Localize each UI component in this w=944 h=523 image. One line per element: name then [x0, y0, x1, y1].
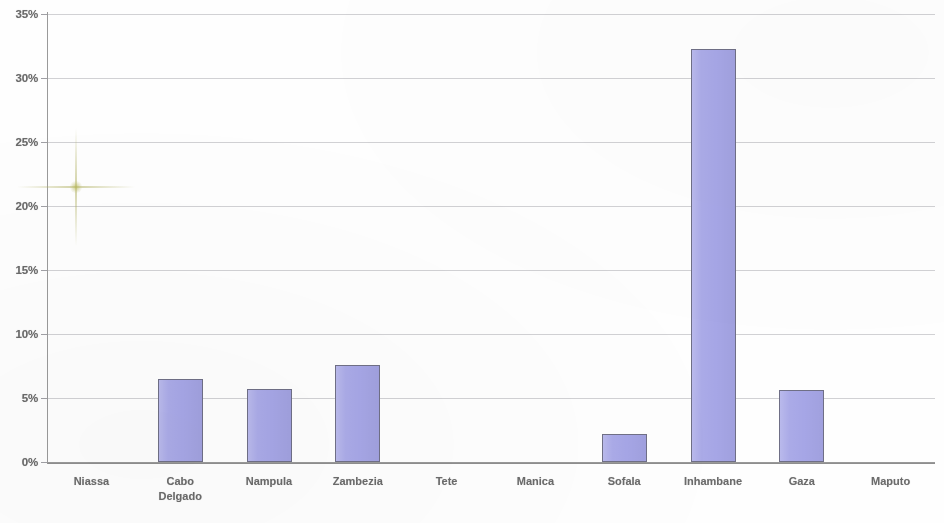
bar-inhambane — [691, 49, 736, 462]
bar-zambezia — [335, 365, 380, 462]
bars-layer — [0, 0, 944, 523]
x-axis-category-label: Zambezia — [333, 474, 383, 489]
bar-cabo-delgado — [158, 379, 203, 462]
bar-sofala — [602, 434, 647, 462]
x-axis-category-label: Nampula — [246, 474, 292, 489]
x-axis-category-label: Inhambane — [684, 474, 742, 489]
x-axis-category-label: Manica — [517, 474, 554, 489]
x-axis-category-label: Cabo Delgado — [158, 474, 201, 504]
x-axis-category-label: Sofala — [608, 474, 641, 489]
x-axis-category-label: Niassa — [74, 474, 109, 489]
x-axis-category-label: Maputo — [871, 474, 910, 489]
x-axis-category-label: Gaza — [789, 474, 815, 489]
bar-nampula — [247, 389, 292, 462]
x-axis-labels: NiassaCabo DelgadoNampulaZambeziaTeteMan… — [0, 474, 944, 523]
bar-gaza — [779, 390, 824, 462]
bar-chart: 35%30%25%20%15%10%5%0% NiassaCabo Delgad… — [0, 0, 944, 523]
x-axis-category-label: Tete — [436, 474, 458, 489]
